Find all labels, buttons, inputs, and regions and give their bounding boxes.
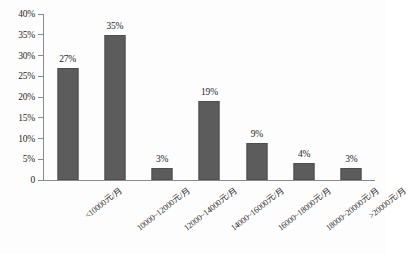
y-axis-tick-label: 0 — [30, 174, 35, 186]
y-axis-tick: 5% — [0, 153, 43, 165]
bar-group: 3% — [139, 14, 186, 180]
bar-value-label: 3% — [345, 154, 357, 165]
y-axis-tick-mark — [38, 97, 43, 98]
y-axis-tick: 25% — [0, 70, 43, 82]
bar-value-label: 27% — [59, 54, 76, 65]
y-axis-tick-mark — [38, 138, 43, 139]
bar-value-label: 3% — [156, 154, 168, 165]
plot-area: 27%35%3%19%9%4%3% — [44, 14, 375, 180]
y-axis-tick: 10% — [0, 133, 43, 145]
y-axis-tick-mark — [38, 180, 43, 181]
bar-group: 35% — [91, 14, 138, 180]
y-axis-tick-label: 40% — [18, 8, 35, 20]
y-axis-tick-mark — [38, 159, 43, 160]
y-axis-tick: 20% — [0, 91, 43, 103]
y-axis-tick-label: 5% — [23, 153, 35, 165]
bar[interactable] — [57, 68, 78, 180]
bar-value-label: 35% — [107, 21, 124, 32]
bar-group: 27% — [44, 14, 91, 180]
bar-group: 4% — [280, 14, 327, 180]
y-axis-tick: 30% — [0, 50, 43, 62]
bar[interactable] — [341, 168, 362, 180]
y-axis-tick: 0 — [0, 174, 43, 186]
bar-value-label: 9% — [251, 129, 263, 140]
y-axis-tick-label: 15% — [18, 112, 35, 124]
bar[interactable] — [199, 101, 220, 180]
y-axis-tick: 15% — [0, 112, 43, 124]
bar[interactable] — [246, 143, 267, 180]
y-axis-tick-label: 30% — [18, 50, 35, 62]
bar-value-label: 4% — [298, 149, 310, 160]
y-axis-tick-label: 10% — [18, 133, 35, 145]
y-axis-tick-label: 35% — [18, 29, 35, 41]
y-axis-tick-label: 20% — [18, 91, 35, 103]
bar[interactable] — [294, 163, 315, 180]
y-axis-tick-mark — [38, 34, 43, 35]
x-axis-category-label: <10000元/月 — [83, 185, 124, 220]
bar[interactable] — [152, 168, 173, 180]
y-axis-tick-mark — [38, 117, 43, 118]
bar-group: 19% — [186, 14, 233, 180]
bar-group: 3% — [328, 14, 375, 180]
bar-value-label: 19% — [201, 87, 218, 98]
y-axis-tick-mark — [38, 76, 43, 77]
y-axis-ticks: 05%10%15%20%25%30%35%40% — [0, 0, 43, 253]
y-axis-tick-mark — [38, 14, 43, 15]
y-axis-tick: 40% — [0, 8, 43, 20]
x-axis-category-labels: <10000元/月10000~12000元/月12000~14000元/月140… — [44, 181, 375, 253]
y-axis-tick-label: 25% — [18, 70, 35, 82]
bar[interactable] — [104, 35, 125, 180]
y-axis-tick-mark — [38, 55, 43, 56]
y-axis-tick: 35% — [0, 29, 43, 41]
bar-group: 9% — [233, 14, 280, 180]
